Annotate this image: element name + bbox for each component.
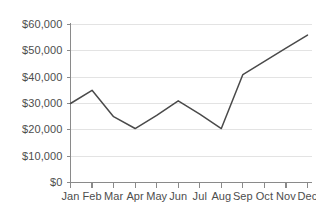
x-axis-label: Nov bbox=[276, 190, 296, 202]
x-axis-label: Jul bbox=[193, 190, 207, 202]
chart-canvas: $0$10,000$20,000$30,000$40,000$50,000$60… bbox=[0, 0, 316, 209]
y-axis-label: $60,000 bbox=[22, 18, 62, 30]
x-axis-label: Sep bbox=[233, 190, 253, 202]
y-axis-label: $30,000 bbox=[22, 97, 62, 109]
y-axis-label: $50,000 bbox=[22, 44, 62, 56]
x-axis-label: Jun bbox=[169, 190, 187, 202]
line-chart: $0$10,000$20,000$30,000$40,000$50,000$60… bbox=[0, 0, 316, 209]
x-axis-label: Dec bbox=[298, 190, 316, 202]
x-axis-label: Mar bbox=[104, 190, 123, 202]
y-axis-label: $10,000 bbox=[22, 150, 62, 162]
y-axis-label: $0 bbox=[50, 176, 62, 188]
x-axis-label: Aug bbox=[211, 190, 231, 202]
y-axis-label: $40,000 bbox=[22, 71, 62, 83]
x-axis-label: Oct bbox=[256, 190, 273, 202]
x-axis-label: Feb bbox=[82, 190, 101, 202]
y-axis-label: $20,000 bbox=[22, 123, 62, 135]
x-axis-label: Apr bbox=[126, 190, 144, 202]
x-axis-label: May bbox=[146, 190, 167, 202]
x-axis-label: Jan bbox=[61, 190, 79, 202]
